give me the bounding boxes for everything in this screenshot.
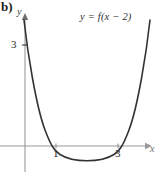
x-axis bbox=[0, 143, 152, 149]
parabola-curve bbox=[24, 20, 150, 161]
y-tick-label-3: 3 bbox=[11, 39, 17, 50]
x-axis-label: x bbox=[150, 144, 154, 154]
y-axis-label: y bbox=[17, 7, 21, 17]
x-tick-label-3: 3 bbox=[115, 148, 121, 159]
equation-annotation: y = f(x − 2) bbox=[80, 12, 132, 23]
figure-panel: b) y x y = f(x − 2) 3 1 3 bbox=[0, 0, 158, 172]
x-tick-label-1: 1 bbox=[53, 148, 59, 159]
y-axis-arrowhead bbox=[22, 13, 28, 20]
y-axis bbox=[22, 13, 28, 172]
parabola-plot bbox=[0, 0, 158, 172]
part-label: b) bbox=[1, 0, 13, 13]
